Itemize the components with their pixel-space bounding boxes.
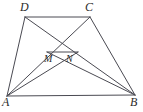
cevian-BM — [47, 52, 135, 95]
vertex-label-B: B — [130, 96, 137, 108]
vertex-label-D: D — [20, 1, 29, 13]
side-AB — [7, 95, 135, 96]
side-BC — [90, 17, 135, 95]
geometry-figure: D C A B M N — [0, 0, 143, 112]
vertex-label-C: C — [85, 1, 93, 13]
point-label-M: M — [44, 54, 52, 64]
point-label-N: N — [66, 54, 73, 64]
side-AD — [7, 17, 25, 96]
vertex-label-A: A — [2, 96, 9, 108]
diagonal-DB — [25, 17, 135, 95]
